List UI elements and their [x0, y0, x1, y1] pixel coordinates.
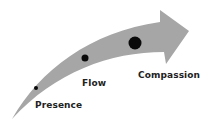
- compassion-label: Compassion: [138, 70, 200, 80]
- compassion-dot: [129, 37, 142, 50]
- flow-dot: [82, 55, 89, 62]
- presence-dot: [34, 86, 38, 90]
- growth-arrow: [0, 0, 206, 129]
- flow-label: Flow: [82, 78, 106, 88]
- presence-label: Presence: [35, 100, 82, 110]
